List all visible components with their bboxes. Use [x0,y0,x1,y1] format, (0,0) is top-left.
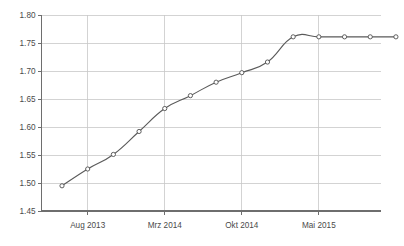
data-point-marker [188,94,192,98]
y-axis-tick-labels: 1.451.501.551.601.651.701.751.80 [20,11,36,216]
x-axis-tick-label: Mrz 2014 [148,221,183,230]
data-point-marker [342,35,346,39]
y-axis-tick-label: 1.70 [20,67,36,76]
data-point-marker [317,35,321,39]
data-point-marker [86,167,90,171]
y-axis-tick-label: 1.60 [20,123,36,132]
chart-canvas: 1.451.501.551.601.651.701.751.80 Aug 201… [0,0,404,246]
data-point-marker [291,35,295,39]
data-point-marker [111,152,115,156]
grid-lines [42,15,381,183]
y-axis-tick-label: 1.80 [20,11,36,20]
y-axis-tick-label: 1.45 [20,207,36,216]
data-point-marker [368,35,372,39]
tick-marks [38,15,319,215]
y-axis-tick-label: 1.75 [20,39,36,48]
x-axis-tick-label: Mai 2015 [302,221,336,230]
series-line [62,34,396,185]
data-point-marker [60,184,64,188]
y-axis-tick-label: 1.65 [20,95,36,104]
data-series [62,34,396,185]
axis-lines [42,15,381,211]
data-point-marker [265,60,269,64]
x-axis-tick-labels: Aug 2013Mrz 2014Okt 2014Mai 2015 [70,221,336,230]
data-point-marker [240,71,244,75]
x-axis-tick-label: Okt 2014 [225,221,259,230]
data-point-marker [137,129,141,133]
y-axis-tick-label: 1.55 [20,151,36,160]
y-axis-tick-label: 1.50 [20,179,36,188]
data-point-marker [214,80,218,84]
line-chart: 1.451.501.551.601.651.701.751.80 Aug 201… [0,0,404,246]
data-point-marker [394,35,398,39]
x-axis-tick-label: Aug 2013 [70,221,106,230]
data-point-marker [163,106,167,110]
data-point-markers [60,35,398,188]
